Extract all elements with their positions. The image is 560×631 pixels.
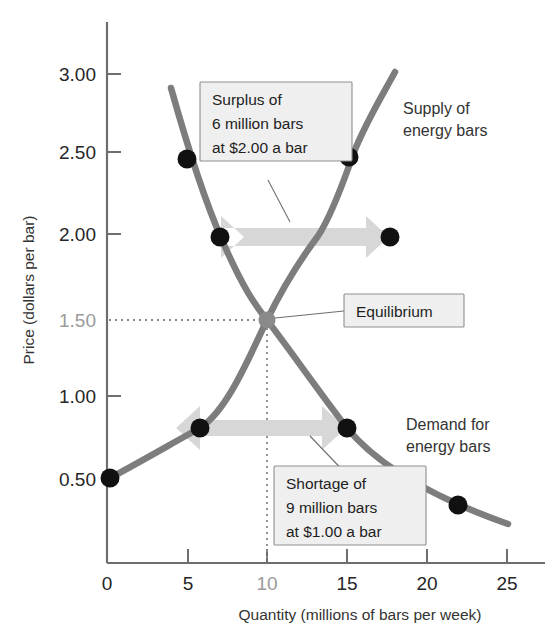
supply-demand-chart: 3.00 2.50 2.00 1.50 1.00 0.50 0 5 10 15 … bbox=[0, 0, 560, 631]
supply-point-0-0.50 bbox=[101, 469, 120, 488]
surplus-line-1: Surplus of bbox=[212, 91, 282, 108]
supply-curve-label: Supply of energy bars bbox=[403, 100, 488, 139]
x-tick-label-5: 5 bbox=[183, 573, 194, 594]
equilibrium-guides bbox=[109, 320, 267, 561]
surplus-callout: Surplus of 6 million bars at $2.00 a bar bbox=[200, 82, 352, 222]
x-ticks bbox=[107, 549, 507, 563]
chart-canvas: 3.00 2.50 2.00 1.50 1.00 0.50 0 5 10 15 … bbox=[0, 0, 560, 631]
supply-point-13-2.00 bbox=[381, 228, 400, 247]
demand-curve-label: Demand for energy bars bbox=[406, 416, 491, 455]
y-tick-label-2.00: 2.00 bbox=[59, 224, 96, 245]
y-tick-label-3.00: 3.00 bbox=[59, 64, 96, 85]
y-tick-label-1.00: 1.00 bbox=[59, 386, 96, 407]
supply-label-line1: Supply of bbox=[403, 100, 470, 117]
equilibrium-callout: Equilibrium bbox=[275, 294, 464, 327]
shortage-line-1: Shortage of bbox=[286, 475, 367, 492]
y-tick-label-0.50: 0.50 bbox=[59, 469, 96, 490]
demand-point-15-1.00 bbox=[338, 419, 357, 438]
shortage-line-3: at $1.00 a bar bbox=[286, 523, 382, 540]
y-ticks bbox=[107, 74, 121, 396]
equilibrium-label: Equilibrium bbox=[356, 303, 433, 320]
supply-label-line2: energy bars bbox=[403, 122, 488, 139]
demand-label-line2: energy bars bbox=[406, 438, 491, 455]
surplus-line-2: 6 million bars bbox=[212, 115, 304, 132]
y-axis-title: Price (dollars per bar) bbox=[20, 215, 37, 364]
shortage-line-2: 9 million bars bbox=[286, 499, 378, 516]
x-tick-label-10: 10 bbox=[256, 573, 277, 594]
surplus-line-3: at $2.00 a bar bbox=[212, 139, 308, 156]
x-axis-title: Quantity (millions of bars per week) bbox=[239, 606, 482, 623]
demand-label-line1: Demand for bbox=[406, 416, 490, 433]
shortage-callout: Shortage of 9 million bars at $1.00 a ba… bbox=[274, 436, 426, 545]
x-tick-label-0: 0 bbox=[102, 573, 113, 594]
x-tick-label-15: 15 bbox=[336, 573, 357, 594]
demand-point-5-2.50 bbox=[178, 150, 197, 169]
equilibrium-point-marker bbox=[259, 312, 276, 329]
data-point-markers bbox=[101, 148, 468, 515]
x-tick-label-20: 20 bbox=[416, 573, 437, 594]
supply-point-6-1.00 bbox=[191, 419, 210, 438]
equilibrium-leader-line bbox=[275, 311, 344, 318]
y-tick-label-1.50: 1.50 bbox=[59, 310, 96, 331]
y-tick-label-2.50: 2.50 bbox=[59, 142, 96, 163]
demand-point-22-0.50 bbox=[449, 496, 468, 515]
demand-point-7-2.00 bbox=[211, 228, 230, 247]
x-tick-label-25: 25 bbox=[496, 573, 517, 594]
surplus-leader-line bbox=[268, 180, 290, 222]
